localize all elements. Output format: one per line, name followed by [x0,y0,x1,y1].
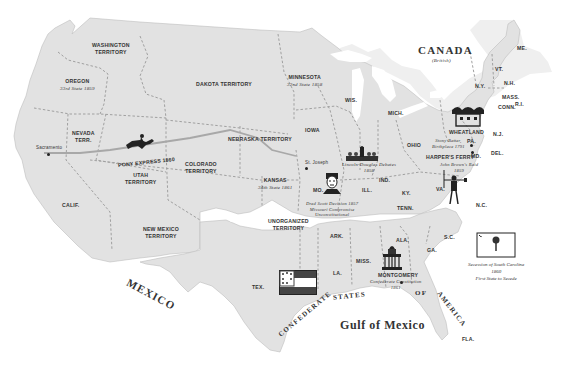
st-joseph-label: St. Joseph [305,160,328,166]
state-label-nh: N.H. [504,80,515,87]
new-mexico-territory-label: NEW MEXICOTERRITORY [143,226,179,239]
confederate-constitution-label: Confederate Constitution1861 [370,279,421,290]
sacramento-dot [47,153,50,156]
pony-express-rider-icon [124,133,156,151]
south-carolina-flag-icon [476,232,516,258]
oregon-label: OREGON33rd State 1859 [60,78,95,92]
sacramento-label: Sacramento [36,145,62,151]
state-label-ri: R.I. [515,101,524,108]
dakota-territory-label: DAKOTA TERRITORY [196,81,252,88]
state-label-iowa: IOWA [305,127,320,134]
state-label-nj: N.J. [493,131,503,138]
state-label-wis: WIS. [345,97,357,104]
dred-scott-portrait-icon [323,172,341,194]
minnesota-label: MINNESOTA32nd State 1858 [287,74,323,88]
gulf-of-mexico-label: Gulf of Mexico [340,318,425,333]
wheatland-house-icon [450,104,486,128]
state-label-conn: CONN. [498,104,516,111]
nevada-territory-label: NEVADATERR. [72,130,95,143]
colorado-territory-label: COLORADOTERRITORY [185,161,217,174]
state-label-del: DEL. [491,150,504,157]
state-label-ny: N.Y. [475,83,485,90]
dred-scott-label: Dred Scott Decision 1857Missouri Comprom… [306,201,358,218]
nebraska-territory-label: NEBRASKA TERRITORY [228,136,292,143]
lincoln-douglas-label: Lincoln-Douglas Debates1858 [342,162,396,174]
john-brown-icon [442,166,468,206]
state-label-mich: MICH. [388,110,404,117]
state-label-ark: ARK. [330,233,343,240]
wheatland-label: WHEATLAND [449,129,484,136]
california-label: CALIF. [62,202,79,209]
confederate-flag-icon [279,270,317,295]
state-label-fla: FLA. [462,336,474,343]
washington-territory-label: WASHINGTONTERRITORY [92,42,130,55]
state-label-tenn: TENN. [397,205,414,212]
st-joseph-dot [305,167,308,170]
state-label-la: LA. [333,270,342,277]
state-label-ill: ILL. [362,187,372,194]
confederate-capitol-icon [381,243,403,271]
state-label-vt: VT. [495,66,503,73]
sc-secession-caption: Secession of South Carolina1860First Sta… [468,262,524,282]
state-label-nc: N.C. [476,202,487,209]
state-label-ohio: OHIO [407,142,421,149]
stony-batter-label: Stony Batter,Birthplace 1791 [432,138,465,149]
state-label-ga: GA. [427,247,437,254]
canada-label: CANADA [418,44,473,58]
montgomery-label: MONTGOMERY [378,272,418,279]
lincoln-douglas-debate-icon [344,146,380,162]
kansas-label: KANSAS34th State 1861 [258,177,292,191]
utah-territory-label: UTAHTERRITORY [125,172,157,185]
state-label-me: ME. [517,45,527,52]
state-label-miss: MISS. [356,258,371,265]
state-label-mass: MASS. [502,94,519,101]
unorganized-territory-label: UNORGANIZEDTERRITORY [268,218,309,231]
state-label-sc: S.C. [444,234,455,241]
state-label-tex: TEX. [252,284,264,291]
stony-batter-dot [470,144,473,147]
state-label-ky: KY. [402,190,411,197]
canada-sub-label: (British) [432,58,451,64]
harpers-ferry-label: HARPER'S FERRY [426,154,474,161]
state-label-ind: IND. [379,177,390,184]
state-label-mo: MO. [313,187,323,194]
